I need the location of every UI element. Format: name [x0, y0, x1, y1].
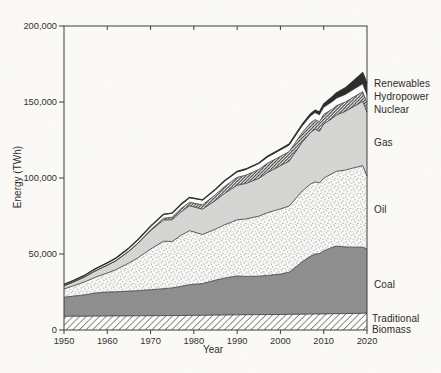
legend-label-hydropower: Hydropower — [374, 91, 429, 102]
legend-label-nuclear: Nuclear — [374, 104, 409, 115]
legend-label-gas: Gas — [374, 137, 393, 148]
y-axis-title: Energy (TWh) — [12, 131, 24, 223]
legend-label-coal: Coal — [374, 279, 395, 290]
x-axis-title: Year — [183, 344, 243, 355]
legend-label-traditional-biomass: Traditional Biomass — [372, 313, 434, 335]
legend-label-renewables: Renewables — [374, 78, 430, 89]
energy-consumption-figure: 050,000100,000150,000200,000195019601970… — [0, 0, 441, 373]
legend-label-oil: Oil — [374, 204, 387, 215]
